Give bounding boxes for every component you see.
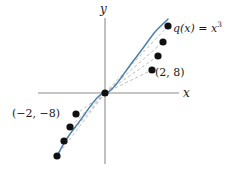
data-point — [154, 52, 161, 59]
secant-lines-group — [57, 26, 168, 156]
data-points-group — [53, 22, 171, 159]
math-figure: y x q(x) = x3 (2, 8) (−2, −8) — [0, 0, 228, 174]
secant-line-8 — [76, 93, 105, 114]
data-point — [60, 137, 67, 144]
point-label-upper: (2, 8) — [155, 66, 185, 79]
data-point — [159, 38, 166, 45]
point-label-lower: (−2, −8) — [12, 107, 60, 120]
cubic-curve — [57, 19, 168, 156]
function-label-text: q(x) = x — [173, 22, 217, 35]
y-axis-label: y — [100, 2, 107, 16]
secant-line-5 — [57, 93, 105, 156]
function-label: q(x) = x3 — [173, 22, 222, 35]
data-point — [66, 123, 73, 130]
data-point-origin — [101, 89, 108, 96]
data-point — [164, 22, 171, 29]
data-point — [53, 152, 60, 159]
data-point-neg2-neg8 — [72, 110, 79, 117]
x-axis-label: x — [183, 86, 190, 100]
function-label-exponent: 3 — [217, 20, 222, 29]
